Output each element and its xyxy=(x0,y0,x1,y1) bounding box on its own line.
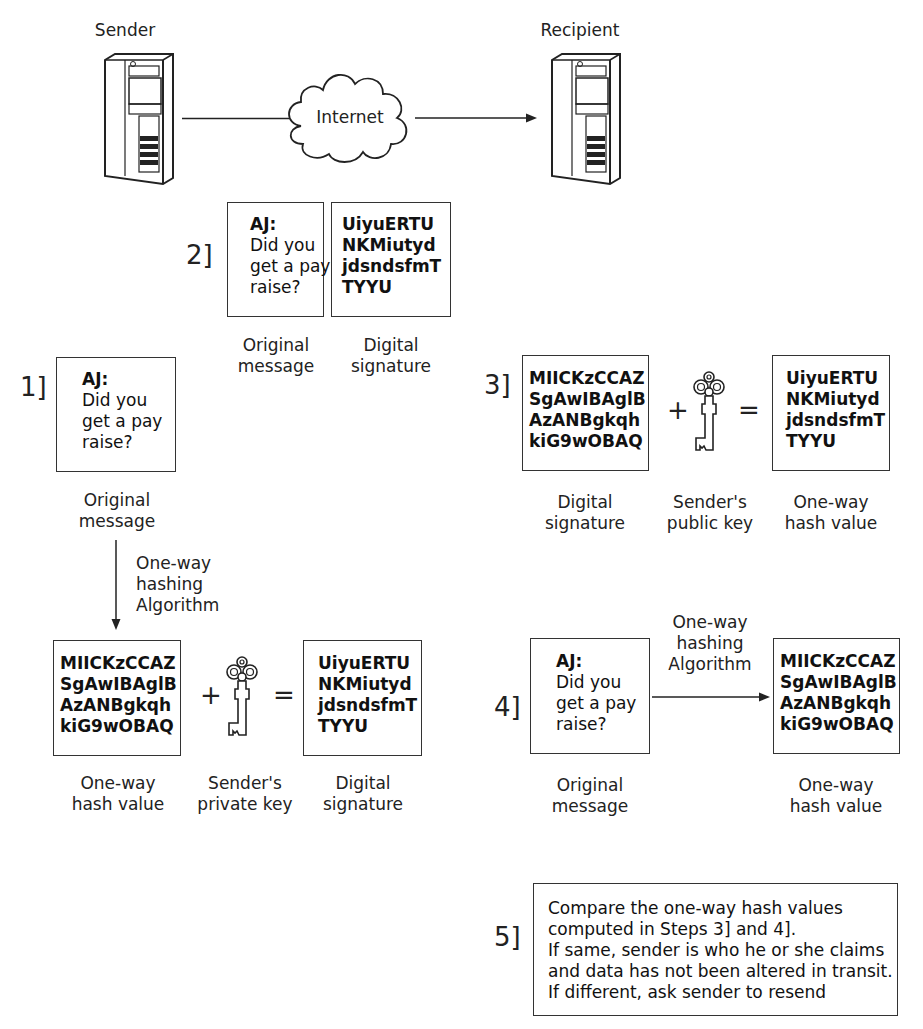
step-4-number: 4] xyxy=(494,692,521,722)
step-3-signature-box: MIICKzCCAZ SgAwIBAglB AzANBgkqh kiG9wOBA… xyxy=(522,355,649,471)
step-3-key-caption: Sender's public key xyxy=(655,492,765,534)
hashing-arrow-down xyxy=(110,540,122,632)
plus-sign: + xyxy=(200,680,222,710)
step-2-number: 2] xyxy=(186,240,213,270)
step-5-number: 5] xyxy=(494,922,521,952)
message-body: Did you get a pay raise? xyxy=(556,672,636,735)
step-1-hash-box: MIICKzCCAZ SgAwIBAglB AzANBgkqh kiG9wOBA… xyxy=(53,640,181,756)
step-1-hash-caption: One-way hash value xyxy=(55,773,181,815)
step-4-message-box: AJ: Did you get a pay raise? xyxy=(530,638,650,754)
message-body: Did you get a pay raise? xyxy=(250,235,330,298)
step-1-signature-caption: Digital signature xyxy=(305,773,421,815)
hashing-arrow-right xyxy=(652,691,772,703)
message-header: AJ: xyxy=(82,369,108,390)
step-3-signature-caption: Digital signature xyxy=(525,492,645,534)
step-4-message-caption: Original message xyxy=(535,775,645,817)
step-2-message-caption: Original message xyxy=(222,335,330,377)
sender-label: Sender xyxy=(70,20,180,41)
step-2-signature-caption: Digital signature xyxy=(335,335,447,377)
signature-text: UiyuERTU NKMiutyd jdsndsfmT TYYU xyxy=(342,214,441,298)
compare-instructions: Compare the one-way hash values computed… xyxy=(548,898,893,1003)
step-4-algorithm-label: One-way hashing Algorithm xyxy=(652,612,768,675)
equals-sign: = xyxy=(273,680,295,710)
sender-server-icon xyxy=(103,52,173,184)
public-key-icon xyxy=(692,370,726,452)
message-header: AJ: xyxy=(556,651,582,672)
step-1-message-caption: Original message xyxy=(62,490,172,532)
step-3-hash-box: UiyuERTU NKMiutyd jdsndsfmT TYYU xyxy=(772,355,890,471)
internet-label: Internet xyxy=(300,107,400,128)
hash-text: MIICKzCCAZ SgAwIBAglB AzANBgkqh kiG9wOBA… xyxy=(60,653,177,737)
step-3-hash-caption: One-way hash value xyxy=(772,492,890,534)
step-4-hash-caption: One-way hash value xyxy=(776,775,896,817)
step-1-signature-box: UiyuERTU NKMiutyd jdsndsfmT TYYU xyxy=(303,640,422,756)
message-header: AJ: xyxy=(250,214,276,235)
recipient-server-icon xyxy=(550,52,620,184)
private-key-icon xyxy=(225,655,259,737)
hash-text: UiyuERTU NKMiutyd jdsndsfmT TYYU xyxy=(786,368,885,452)
step-4-hash-box: MIICKzCCAZ SgAwIBAglB AzANBgkqh kiG9wOBA… xyxy=(773,638,900,754)
arrow-to-recipient xyxy=(415,112,540,124)
step-1-message-box: AJ: Did you get a pay raise? xyxy=(56,357,176,472)
step-2-message-box: AJ: Did you get a pay raise? xyxy=(227,202,324,317)
hash-text: MIICKzCCAZ SgAwIBAglB AzANBgkqh kiG9wOBA… xyxy=(780,651,897,735)
recipient-label: Recipient xyxy=(525,20,635,41)
signature-text: UiyuERTU NKMiutyd jdsndsfmT TYYU xyxy=(318,653,417,737)
plus-sign: + xyxy=(667,395,689,425)
message-body: Did you get a pay raise? xyxy=(82,390,162,453)
step-1-key-caption: Sender's private key xyxy=(190,773,300,815)
equals-sign: = xyxy=(738,395,760,425)
step-3-number: 3] xyxy=(484,370,511,400)
step-5-compare-box: Compare the one-way hash values computed… xyxy=(533,883,898,1016)
connection-line xyxy=(182,117,292,120)
step-2-signature-box: UiyuERTU NKMiutyd jdsndsfmT TYYU xyxy=(331,202,451,317)
step-1-number: 1] xyxy=(20,372,47,402)
step-1-algorithm-label: One-way hashing Algorithm xyxy=(136,553,219,616)
signature-text: MIICKzCCAZ SgAwIBAglB AzANBgkqh kiG9wOBA… xyxy=(529,368,646,452)
